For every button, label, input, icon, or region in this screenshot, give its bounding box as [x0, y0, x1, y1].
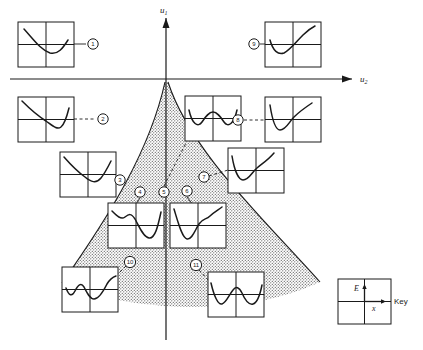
inset-3 — [60, 152, 116, 197]
cusp-catastrophe-figure: u1 u2 — [0, 0, 423, 350]
key-energy-label: E — [353, 284, 359, 293]
inset-1 — [18, 22, 74, 67]
inset-10 — [62, 267, 118, 312]
figure-canvas: u1 u2 — [0, 0, 423, 350]
inset-9 — [265, 22, 321, 67]
inset-4 — [108, 203, 164, 248]
inset-7 — [228, 148, 284, 193]
marker-3: 3 — [115, 175, 125, 185]
marker-10-label: 10 — [127, 259, 134, 265]
marker-2: 2 — [98, 114, 108, 124]
inset-2 — [18, 97, 74, 142]
marker-8: 8 — [233, 115, 243, 125]
inset-6 — [170, 203, 226, 248]
key-box: E x Key — [338, 279, 408, 324]
key-title: Key — [394, 297, 408, 306]
key-position-label: x — [371, 304, 376, 313]
marker-1: 1 — [88, 39, 98, 49]
inset-8 — [265, 97, 321, 142]
horizontal-axis-arrow — [342, 76, 352, 83]
marker-7: 7 — [199, 172, 209, 182]
marker-11-label: 11 — [193, 262, 200, 268]
marker-5: 5 — [159, 187, 169, 197]
inset-11 — [208, 272, 264, 317]
horizontal-axis-label: u2 — [360, 74, 368, 85]
vertical-axis-arrow — [163, 18, 170, 28]
marker-4: 4 — [135, 187, 145, 197]
marker-9: 9 — [249, 39, 259, 49]
marker-11: 11 — [190, 259, 201, 270]
marker-6: 6 — [182, 186, 192, 196]
vertical-axis-label: u1 — [160, 5, 168, 16]
marker-10: 10 — [124, 256, 135, 267]
